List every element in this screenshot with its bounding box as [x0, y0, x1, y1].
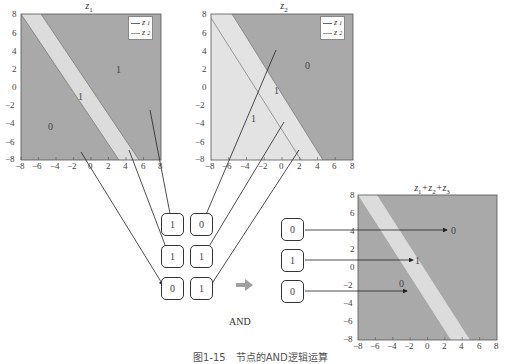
- output-box: 1: [281, 249, 304, 272]
- gray-arrow-icon: [236, 279, 253, 291]
- region-label: 0: [305, 60, 310, 71]
- input-box: 0: [190, 213, 213, 236]
- region-label: 0: [399, 278, 404, 289]
- output-box: 0: [281, 218, 304, 241]
- input-box: 1: [161, 245, 184, 268]
- region-label: 1: [415, 255, 420, 266]
- plot-z1-title: z1: [79, 0, 99, 14]
- input-box: 1: [190, 277, 213, 300]
- region-label: 1: [274, 85, 279, 96]
- plot-z2-legend: z1 z2: [320, 16, 345, 40]
- region-label: 0: [48, 121, 53, 132]
- input-box: 0: [161, 277, 184, 300]
- input-box: 1: [190, 245, 213, 268]
- output-box: 0: [281, 280, 304, 303]
- and-label: AND: [229, 316, 251, 327]
- plot-z2-title: z2: [274, 0, 294, 14]
- region-label: 1: [116, 64, 121, 75]
- region-label: 0: [451, 225, 456, 236]
- plot-z1-legend: z1 z2: [128, 16, 153, 40]
- figure-caption: 图1-15 节点的AND逻辑运算: [193, 349, 328, 364]
- plot-sum-area: [358, 195, 497, 340]
- input-box: 1: [161, 213, 184, 236]
- region-label: 1: [78, 91, 83, 102]
- plot-sum-title: z1+z2+z3: [402, 182, 462, 196]
- region-label: 1: [251, 113, 256, 124]
